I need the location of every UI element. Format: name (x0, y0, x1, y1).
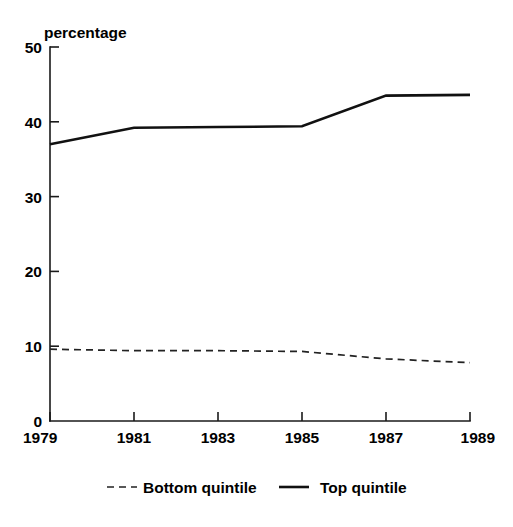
series-line-bottom-quintile (50, 349, 470, 362)
x-axis-ticks (50, 412, 470, 421)
chart-legend: Bottom quintileTop quintile (107, 479, 407, 496)
line-chart: percentage 01020304050 19791981198319851… (0, 0, 513, 527)
x-tick-label: 1989 (461, 429, 496, 446)
y-axis-tick-labels: 01020304050 (25, 39, 42, 430)
y-tick-label: 0 (33, 413, 42, 430)
y-tick-label: 50 (25, 39, 42, 56)
data-series-layer (50, 95, 470, 363)
x-tick-label: 1985 (285, 429, 320, 446)
y-tick-label: 20 (25, 263, 42, 280)
y-tick-label: 30 (25, 189, 42, 206)
x-tick-label: 1987 (369, 429, 403, 446)
x-tick-label: 1983 (201, 429, 236, 446)
chart-container: percentage 01020304050 19791981198319851… (0, 0, 513, 527)
series-line-top-quintile (50, 95, 470, 144)
y-axis-label: percentage (44, 24, 127, 41)
x-tick-label: 1979 (23, 429, 58, 446)
y-tick-label: 40 (25, 114, 42, 131)
x-axis-tick-labels: 197919811983198519871989 (23, 429, 495, 446)
legend-label: Bottom quintile (143, 479, 257, 496)
x-tick-label: 1981 (117, 429, 152, 446)
y-tick-label: 10 (25, 338, 42, 355)
legend-label: Top quintile (320, 479, 407, 496)
y-axis-ticks (50, 47, 59, 346)
